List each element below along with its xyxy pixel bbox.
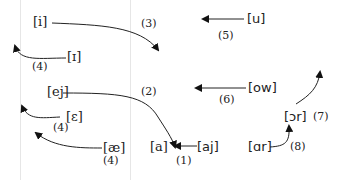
vowel-or: [ɔr] xyxy=(284,110,307,124)
vowel-ej: [ej] xyxy=(47,85,69,99)
step-8: (8) xyxy=(290,141,306,153)
arrow-4c xyxy=(36,133,102,148)
arrow-4a xyxy=(15,46,66,58)
step-6: (6) xyxy=(219,94,235,106)
vowel-aj: [aj] xyxy=(197,140,219,154)
vowel-a: [a] xyxy=(150,140,168,154)
step-4b: (4) xyxy=(53,122,69,134)
arrow-4b xyxy=(22,106,60,118)
vowel-u: [u] xyxy=(247,12,265,26)
vowel-ow: [ow] xyxy=(248,81,277,95)
step-3: (3) xyxy=(141,18,157,30)
step-4a: (4) xyxy=(32,61,48,73)
step-1: (1) xyxy=(176,155,192,167)
step-4c: (4) xyxy=(103,155,119,167)
vowel-I: [ɪ] xyxy=(67,50,81,64)
step-2: (2) xyxy=(141,86,157,98)
vowel-ar: [ɑr] xyxy=(248,140,272,154)
vowel-ae: [æ] xyxy=(103,141,125,155)
vowel-shift-diagram: [i] (3) [ɪ] (4) [ej] (2) [ɛ] (4) [æ] (4)… xyxy=(0,0,344,180)
arrow-8 xyxy=(270,126,289,147)
vowel-i: [i] xyxy=(33,15,47,29)
step-5: (5) xyxy=(218,30,234,42)
step-7: (7) xyxy=(313,111,329,123)
arrow-7 xyxy=(296,72,320,104)
